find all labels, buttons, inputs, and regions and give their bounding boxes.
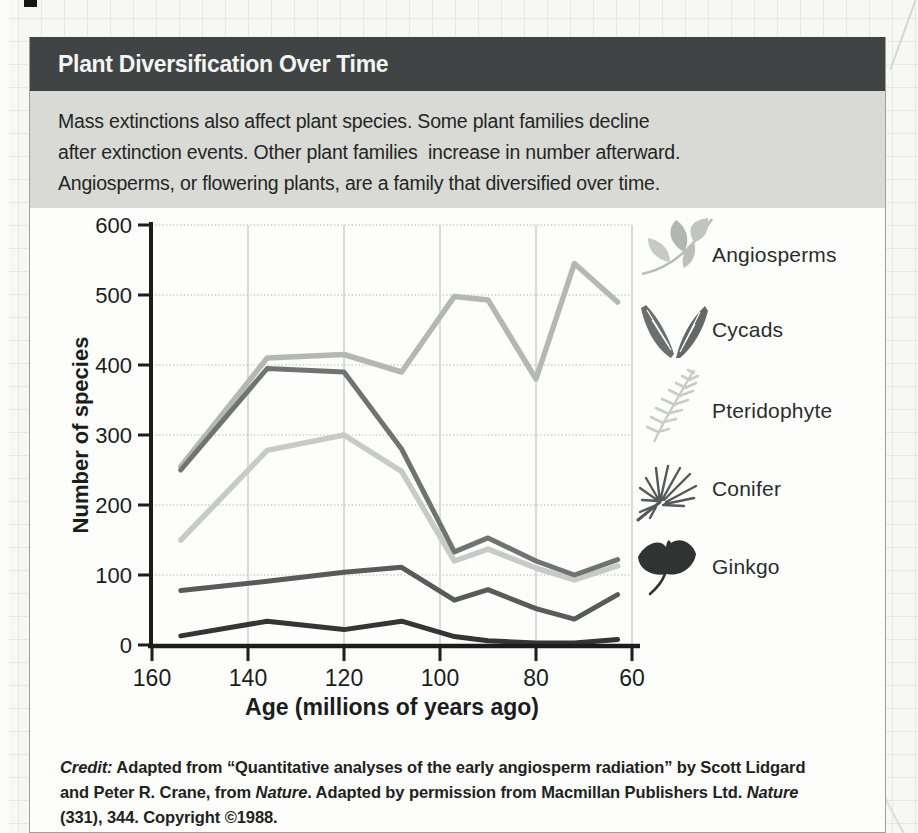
y-axis-title: Number of species <box>68 337 93 534</box>
ginkgo-icon <box>634 534 700 596</box>
y-tick-label: 0 <box>120 633 132 658</box>
x-tick-label: 60 <box>619 665 645 691</box>
x-axis-title: Age (millions of years ago) <box>245 694 539 720</box>
x-tick-label: 120 <box>325 665 363 691</box>
legend-label-cycads: Cycads <box>712 318 783 342</box>
credit-segment: and Peter R. Crane, from <box>60 783 256 801</box>
credit-line: (331), 344. Copyright ©1988. <box>60 805 860 830</box>
y-tick-label: 100 <box>95 563 132 588</box>
legend-label-ginkgo: Ginkgo <box>712 555 780 579</box>
x-tick-label: 80 <box>523 665 549 691</box>
y-tick-label: 300 <box>95 423 132 448</box>
x-tick-label: 160 <box>133 665 171 691</box>
x-tick-label: 140 <box>229 665 267 691</box>
angiosperms-icon <box>636 216 720 282</box>
credit-segment: Nature <box>747 783 799 801</box>
conifer-icon <box>634 460 700 524</box>
y-tick-label: 500 <box>95 283 132 308</box>
cycads-icon <box>638 294 710 362</box>
y-tick-label: 600 <box>95 213 132 238</box>
legend-label-pteridophyte: Pteridophyte <box>712 399 832 423</box>
credit-segment: (331), 344. Copyright ©1988. <box>60 808 278 826</box>
credit-text: Credit: Adapted from “Quantitative analy… <box>60 755 860 830</box>
credit-segment: Adapted from “Quantitative analyses of t… <box>112 758 805 776</box>
page-background: Plant Diversification Over Time Mass ext… <box>0 0 918 833</box>
series-line-pteridophyte <box>181 435 618 580</box>
x-tick-label: 100 <box>421 665 459 691</box>
credit-segment: Nature <box>256 783 308 801</box>
credit-line: Credit: Adapted from “Quantitative analy… <box>60 755 860 780</box>
series-line-ginkgo <box>181 621 618 643</box>
credit-segment: Credit: <box>60 758 112 776</box>
legend-label-angiosperms: Angiosperms <box>712 243 837 267</box>
y-tick-label: 200 <box>95 493 132 518</box>
credit-line: and Peter R. Crane, from Nature. Adapted… <box>60 780 860 805</box>
y-tick-label: 400 <box>95 353 132 378</box>
pteridophyte-icon <box>644 360 708 446</box>
credit-segment: . Adapted by permission from Macmillan P… <box>307 783 746 801</box>
legend-label-conifer: Conifer <box>712 477 781 501</box>
